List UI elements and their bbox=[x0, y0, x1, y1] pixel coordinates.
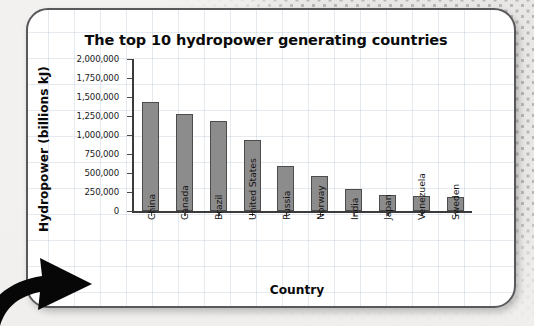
y-axis-tick: 1,000,000 bbox=[127, 135, 132, 136]
y-axis-tick: 500,000 bbox=[127, 173, 132, 174]
x-axis-tick-label: Canada bbox=[179, 185, 190, 220]
y-axis-title-text: Hydropower (billions kJ) bbox=[37, 59, 51, 239]
x-axis-tick-label: India bbox=[348, 198, 359, 220]
y-axis-tick: 1,500,000 bbox=[127, 97, 132, 98]
y-axis-tick-label: 1,500,000 bbox=[77, 92, 119, 102]
y-axis-tick-label: 750,000 bbox=[85, 149, 120, 159]
x-axis-tick-label: Japan bbox=[382, 195, 393, 220]
y-axis-tick: 1,750,000 bbox=[127, 78, 132, 79]
chart-card: The top 10 hydropower generating countri… bbox=[26, 8, 516, 308]
y-axis-tick: 750,000 bbox=[127, 154, 132, 155]
bar-group: Venezuela bbox=[404, 59, 438, 211]
y-axis-tick: 250,000 bbox=[127, 192, 132, 193]
y-axis-tick: 1,250,000 bbox=[127, 116, 132, 117]
x-axis-title: Country bbox=[132, 283, 462, 297]
y-axis-title: Hydropower (billions kJ) bbox=[30, 50, 56, 250]
bar-series: ChinaCanadaBrazilUnited StatesRussiaNorw… bbox=[134, 59, 472, 211]
plot-area: 2,000,0001,750,0001,500,0001,250,0001,00… bbox=[132, 59, 472, 211]
x-axis-tick-label: China bbox=[145, 194, 156, 220]
bar-group: United States bbox=[235, 59, 269, 211]
y-axis-tick-label: 250,000 bbox=[85, 187, 120, 197]
y-axis-tick-label: 2,000,000 bbox=[77, 54, 119, 64]
x-axis-tick-label: Sweden bbox=[450, 184, 461, 220]
bar-group: Sweden bbox=[438, 59, 472, 211]
screenshot-root: The top 10 hydropower generating countri… bbox=[0, 0, 534, 326]
y-axis-tick-label: 500,000 bbox=[85, 168, 120, 178]
y-axis-tick-label: 1,250,000 bbox=[77, 111, 119, 121]
x-axis-tick-label: Venezuela bbox=[416, 173, 427, 220]
bar-group: Brazil bbox=[201, 59, 235, 211]
x-axis-tick-label: United States bbox=[247, 158, 258, 220]
bar-group: Canada bbox=[167, 59, 201, 211]
x-axis-tick-label: Brazil bbox=[213, 195, 224, 220]
bar-group: Japan bbox=[371, 59, 405, 211]
bar-group: China bbox=[134, 59, 168, 211]
x-axis-tick-label: Norway bbox=[314, 185, 325, 220]
y-axis-tick-label: 1,000,000 bbox=[77, 130, 119, 140]
bar-group: Russia bbox=[269, 59, 303, 211]
y-axis-tick: 0 bbox=[127, 211, 132, 212]
bar-group: India bbox=[337, 59, 371, 211]
y-axis-tick-label: 1,750,000 bbox=[77, 73, 119, 83]
bar-group: Norway bbox=[303, 59, 337, 211]
x-axis-tick-label: Russia bbox=[280, 191, 291, 220]
y-axis-tick: 2,000,000 bbox=[127, 59, 132, 60]
chart-title: The top 10 hydropower generating countri… bbox=[28, 32, 504, 48]
y-axis-tick-label: 0 bbox=[114, 206, 119, 216]
